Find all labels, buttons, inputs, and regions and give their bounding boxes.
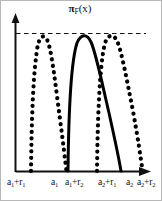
tick-plus-sub: 2 (152, 181, 155, 188)
tick-plus-sub: 1 (22, 181, 25, 188)
x-axis-tick-labels: a1+r1 a1 a1+r2 a2+r1 a2 a2+r2 (1, 177, 161, 197)
tick-label-a1-plus-r2: a1+r2 (65, 177, 83, 188)
tick-plus: +r (14, 177, 22, 187)
right-dotted-curve (97, 36, 143, 171)
tick-label-a2-plus-r1: a2+r1 (98, 177, 116, 188)
tick-label-a2: a2 (126, 177, 133, 188)
tick-plus: +r (72, 177, 80, 187)
tick-label-a2-plus-r2: a2+r2 (137, 177, 155, 188)
figure-container: πF(x) a1+r1 a1 a1+r2 a2+r1 a2 (0, 0, 162, 201)
tick-plus-sub: 2 (80, 181, 83, 188)
left-dotted-curve (31, 36, 67, 171)
tick-label-a1-plus-r1: a1+r1 (7, 177, 25, 188)
plot-area (1, 1, 161, 200)
tick-base-sub: 2 (130, 181, 133, 188)
tick-label-a1: a1 (51, 177, 58, 188)
x-axis-arrow-icon (139, 167, 151, 176)
tick-plus: +r (144, 177, 152, 187)
y-axis-arrow-icon (12, 13, 20, 23)
tick-base-sub: 1 (55, 181, 58, 188)
center-solid-curve (68, 36, 121, 171)
tick-plus: +r (105, 177, 113, 187)
tick-plus-sub: 1 (113, 181, 116, 188)
